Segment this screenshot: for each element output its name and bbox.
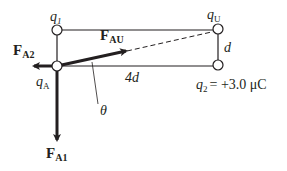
charge-q2 xyxy=(213,60,223,70)
force-diagram: q1 qU qA q2= +3.0 μC d 4d FAU FA2 FA1 θ xyxy=(0,0,287,171)
label-height-d: d xyxy=(224,40,232,55)
charge-q1 xyxy=(52,25,62,35)
label-width-4d: 4d xyxy=(125,70,140,85)
dashed-line-to-qU xyxy=(127,31,216,51)
charge-qU xyxy=(213,24,223,34)
label-FA1: FA1 xyxy=(46,145,67,163)
label-qA: qA xyxy=(36,74,50,91)
label-qU: qU xyxy=(207,7,221,24)
charge-qA xyxy=(52,61,62,71)
label-FA2: FA2 xyxy=(13,42,34,60)
label-q1: q1 xyxy=(50,9,62,26)
force-arrow-FAU xyxy=(57,51,126,66)
label-theta: θ xyxy=(100,103,107,118)
label-q2: q2= +3.0 μC xyxy=(196,77,267,94)
theta-leader-line xyxy=(92,62,98,104)
